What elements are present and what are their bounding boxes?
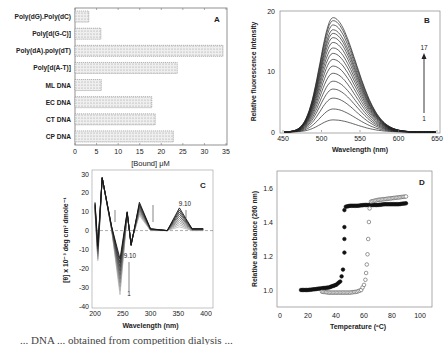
y-tick-label: 0 [85,227,89,234]
cd-spectrum-line [95,178,203,295]
data-point [366,237,370,241]
data-point [365,263,369,267]
x-tick-label: 300 [145,310,157,317]
cd-spectrum-line [95,178,203,291]
cd-spectrum-line [95,178,203,287]
y-tick-label: -20 [79,265,89,272]
y-tick-label: 10 [81,208,89,215]
annotation-label: 1 [127,290,131,297]
data-point [364,271,368,275]
y-tick-label: 30 [81,171,89,178]
data-point [362,283,366,287]
spectrum-line [285,81,436,132]
x-tick-label: 100 [414,312,426,319]
panel-label: B [424,16,430,25]
y-tick-label: 20 [267,8,275,15]
data-point [340,275,344,279]
x-axis-label: Temperature (ºC) [330,323,386,331]
arrow-label-top: 17 [420,44,428,51]
x-tick-label: 15 [136,148,144,155]
x-tick-label: 80 [388,312,396,319]
data-point [367,220,371,224]
x-tick-label: 0 [278,312,282,319]
data-point [343,208,347,212]
x-tick-label: 60 [360,312,368,319]
panel-label: A [214,15,220,24]
category-label: Poly(dG).Poly(dC) [15,13,71,21]
y-tick-label: -30 [79,284,89,291]
x-tick-label: 450 [277,135,289,142]
panel-d-melting-curves: 0204060801001.01.21.41.6Temperature (ºC)… [251,171,432,331]
y-tick-label: -40 [79,303,89,310]
figure: Poly(dG).Poly(dC)Poly[d(G-C)]Poly(dA).po… [0,0,447,345]
y-tick-label: 1.6 [263,185,273,192]
category-label: CP DNA [46,133,71,140]
y-tick-label: 10 [267,68,275,75]
data-point [368,207,372,211]
category-label: Poly[d(A-T)] [33,64,71,72]
category-label: ML DNA [45,82,71,89]
category-label: CT DNA [46,116,71,123]
data-point [343,225,347,229]
panel-label: C [200,181,206,190]
x-tick-label: 650 [431,135,443,142]
bar [75,28,101,39]
data-point [364,278,368,282]
data-point [366,253,370,257]
data-point [338,280,342,284]
category-label: Poly[d(G-C)] [32,30,71,38]
bar [75,131,173,142]
x-tick-label: 35 [222,148,230,155]
bar [75,80,101,91]
caption-fragment: ... DNA ... obtained from competition di… [20,333,447,345]
panel-label: D [419,178,425,187]
y-tick-label: 1.0 [263,287,273,294]
data-point [343,237,347,241]
bar [75,11,89,22]
category-label: Poly(dA).poly(dT) [16,47,71,55]
x-axis-label: Wavelength (nm) [332,146,388,154]
x-axis-label: Wavelength (nm) [122,322,178,330]
bar [75,97,152,108]
x-tick-label: 250 [117,310,129,317]
y-tick-label: 0 [271,129,275,136]
panel-b-fluorescence-spectra: 45050055060065001020Wavelength (nm)Relat… [250,8,443,155]
x-tick-label: 10 [114,148,122,155]
bar [75,45,223,56]
x-tick-label: 600 [393,135,405,142]
x-tick-label: 400 [200,310,212,317]
y-tick-label: 1.4 [263,219,273,226]
panel-a-bar-chart: Poly(dG).Poly(dC)Poly[d(G-C)]Poly(dA).po… [15,8,230,168]
x-axis-label: [Bound] μM [131,159,170,168]
x-tick-label: 500 [316,135,328,142]
x-tick-label: 40 [332,312,340,319]
y-tick-label: -10 [79,246,89,253]
x-tick-label: 30 [201,148,209,155]
x-tick-label: 350 [172,310,184,317]
data-point [341,268,345,272]
x-tick-label: 200 [89,310,101,317]
arrow-label-bottom: 1 [422,115,426,122]
data-point [343,251,347,255]
y-axis-label: Relative fluorescence intensity [250,21,258,121]
annotation-label: 9.10 [124,252,137,259]
x-tick-label: 20 [157,148,165,155]
annotation-label: 9.10 [179,200,192,207]
panel-c-cd-spectra: 200250300350400-40-30-20-100102030Wavele… [62,170,213,330]
x-tick-label: 25 [179,148,187,155]
cd-spectrum-line [95,178,203,259]
y-axis-label: [θ] x 10⁻³ deg cm² dmole⁻¹ [62,196,70,282]
x-tick-label: 5 [95,148,99,155]
bar [75,114,155,125]
bar [75,62,177,73]
x-tick-label: 0 [73,148,77,155]
category-label: EC DNA [46,99,72,106]
x-tick-label: 550 [354,135,366,142]
y-tick-label: 1.2 [263,253,273,260]
y-axis-label: Relative absorbance (260 nm) [251,191,259,287]
x-tick-label: 20 [304,312,312,319]
y-tick-label: 20 [81,189,89,196]
